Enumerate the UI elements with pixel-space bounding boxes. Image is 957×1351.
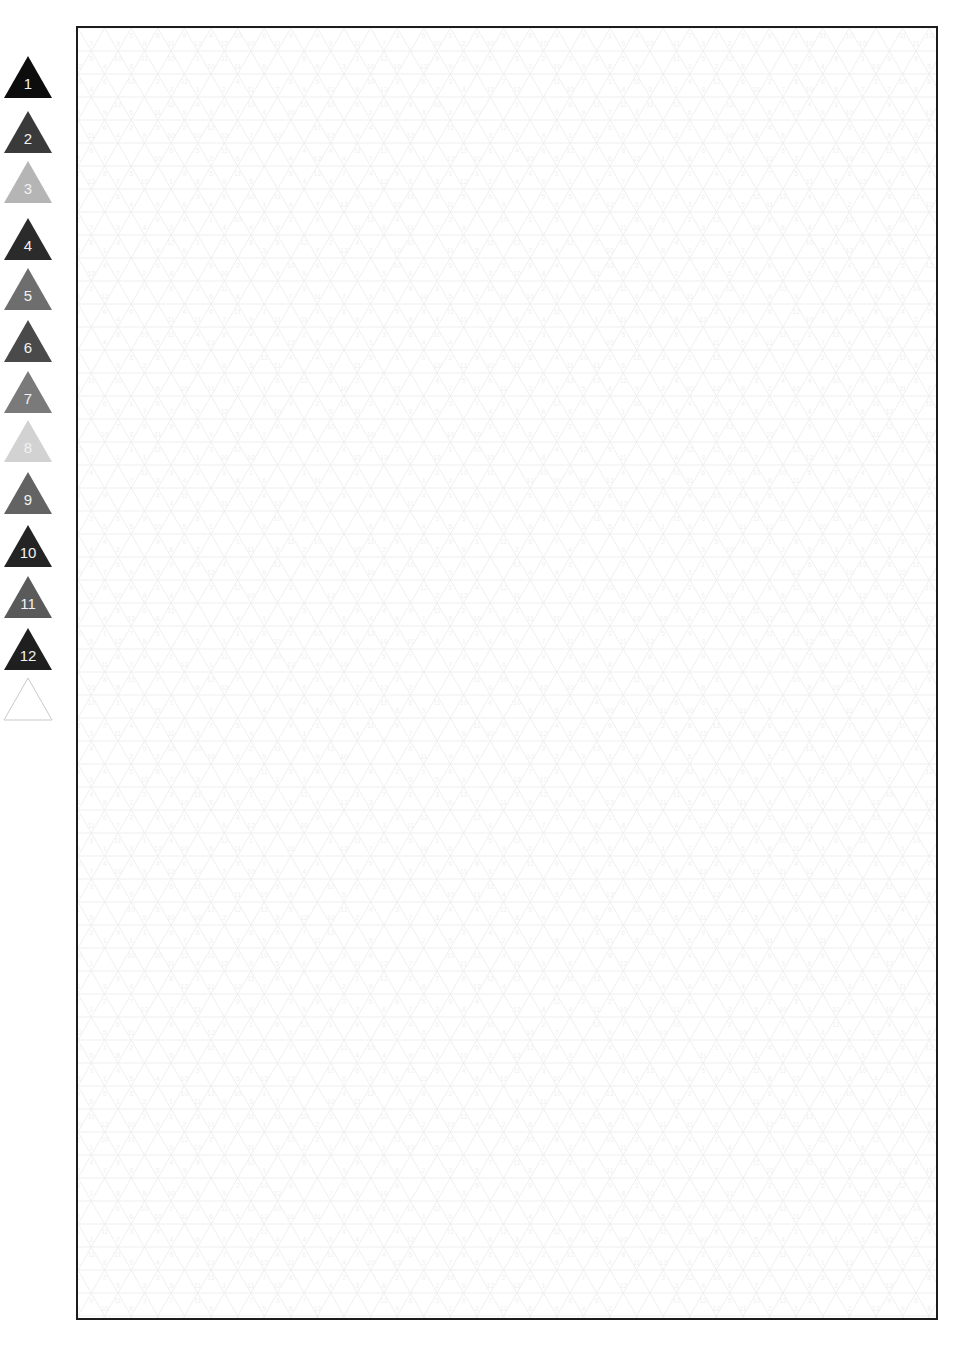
legend-item-12[interactable]: 12	[2, 626, 54, 672]
grid-cell-number: 2	[834, 1282, 838, 1289]
grid-cell-number: 6	[355, 868, 359, 875]
grid-cell-number: 12	[832, 331, 840, 338]
legend-item-9[interactable]: 9	[2, 470, 54, 516]
legend-item-1[interactable]: 1	[2, 54, 54, 100]
legend-item-blank[interactable]	[2, 676, 54, 722]
grid-cell-number: 9	[488, 377, 492, 384]
grid-cell-number: 9	[528, 523, 532, 530]
grid-cell-number: 6	[395, 1167, 399, 1174]
grid-cell-number: 6	[143, 607, 147, 614]
grid-cell-number: 6	[382, 1021, 386, 1028]
grid-cell-number: 11	[739, 446, 746, 453]
grid-cell-number: 12	[806, 454, 814, 461]
grid-cell-number: 8	[289, 1305, 293, 1312]
grid-cell-number: 11	[593, 362, 600, 369]
grid-cell-number: 7	[542, 638, 546, 645]
grid-cell-number: 10	[513, 699, 521, 706]
grid-cell-number: 12	[380, 960, 388, 967]
grid-cell-number: 4	[249, 331, 253, 338]
grid-cell-number: 4	[701, 776, 705, 783]
grid-cell-number: 3	[741, 1075, 745, 1082]
grid-cell-number: 1	[78, 1259, 80, 1266]
grid-cell-number: 12	[486, 975, 494, 982]
grid-cell-number: 10	[393, 63, 401, 70]
grid-cell-number: 2	[89, 1236, 93, 1243]
grid-cell-number: 2	[156, 753, 160, 760]
grid-cell-number: 6	[369, 952, 373, 959]
grid-cell-number: 5	[262, 1305, 266, 1312]
grid-cell-number: 1	[581, 584, 585, 591]
grid-cell-number: 4	[369, 661, 373, 668]
legend-item-3[interactable]: 3	[2, 159, 54, 205]
grid-cell-number: 12	[247, 822, 255, 829]
grid-cell-number: 3	[927, 676, 931, 683]
grid-cell-number: 11	[886, 147, 893, 154]
legend-item-2[interactable]: 2	[2, 109, 54, 155]
grid-cell-number: 5	[236, 1075, 240, 1082]
grid-cell-number: 9	[276, 270, 280, 277]
grid-cell-number: 4	[515, 178, 519, 185]
legend-item-4[interactable]: 4	[2, 216, 54, 262]
grid-cell-number: 3	[289, 998, 293, 1005]
grid-cell-number: 2	[635, 1274, 639, 1281]
grid-cell-number: 10	[274, 653, 282, 660]
grid-cell-number: 9	[448, 998, 452, 1005]
grid-cell-number: 4	[794, 860, 798, 867]
grid-cell-number: 8	[156, 661, 160, 668]
grid-cell-number: 7	[289, 523, 293, 530]
grid-cell-number: 7	[847, 722, 851, 729]
grid-cell-number: 5	[289, 170, 293, 177]
grid-cell-number: 9	[914, 868, 918, 875]
grid-cell-number: 12	[181, 983, 189, 990]
grid-cell-number: 4	[648, 730, 652, 737]
grid-cell-number: 5	[701, 55, 705, 62]
legend-item-5[interactable]: 5	[2, 266, 54, 312]
grid-cell-number: 6	[688, 983, 692, 990]
triangle-grid-panel[interactable]: 1795961181241210106119661173510123105681…	[76, 26, 938, 1320]
grid-cell-number: 11	[154, 109, 161, 116]
grid-cell-number: 10	[726, 546, 734, 553]
legend-item-6[interactable]: 6	[2, 318, 54, 364]
grid-cell-number: 3	[608, 630, 612, 637]
grid-cell-number: 2	[901, 584, 905, 591]
grid-cell-number: 5	[741, 1228, 745, 1235]
grid-cell-number: 8	[648, 653, 652, 660]
grid-cell-number: 11	[380, 699, 387, 706]
grid-cell-number: 1	[249, 469, 253, 476]
grid-cell-number: 7	[435, 745, 439, 752]
grid-cell-number: 5	[555, 216, 559, 223]
grid-cell-number: 5	[621, 331, 625, 338]
grid-cell-number: 11	[580, 676, 587, 683]
grid-cell-number: 2	[435, 469, 439, 476]
grid-cell-number: 3	[595, 929, 599, 936]
grid-cell-number: 7	[329, 270, 333, 277]
grid-cell-number: 5	[914, 408, 918, 415]
grid-cell-number: 12	[114, 638, 122, 645]
grid-cell-number: 10	[580, 354, 588, 361]
grid-cell-number: 3	[369, 1213, 373, 1220]
grid-cell-number: 4	[781, 377, 785, 384]
grid-cell-number: 1	[276, 776, 280, 783]
legend-item-10[interactable]: 10	[2, 523, 54, 569]
grid-cell-number: 9	[874, 676, 878, 683]
grid-cell-number: 7	[701, 1205, 705, 1212]
grid-cell-number: 3	[196, 776, 200, 783]
grid-cell-number: 12	[633, 354, 641, 361]
grid-cell-number: 6	[369, 523, 373, 530]
grid-cell-number: 7	[834, 469, 838, 476]
grid-cell-number: 1	[661, 155, 665, 162]
grid-cell-number: 8	[422, 1090, 426, 1097]
legend-item-11[interactable]: 11	[2, 574, 54, 620]
legend-item-8[interactable]: 8	[2, 418, 54, 464]
grid-cell-number: 4	[621, 1098, 625, 1105]
grid-cell-number: 3	[89, 929, 93, 936]
grid-cell-number: 7	[116, 1236, 120, 1243]
grid-cell-number: 11	[354, 960, 361, 967]
grid-cell-number: 3	[169, 791, 173, 798]
grid-cell-number: 7	[555, 538, 559, 545]
grid-cell-number: 12	[673, 101, 681, 108]
grid-cell-number: 5	[741, 32, 745, 39]
legend-item-7[interactable]: 7	[2, 369, 54, 415]
grid-cell-number: 9	[701, 929, 705, 936]
grid-cell-number: 12	[181, 1136, 189, 1143]
